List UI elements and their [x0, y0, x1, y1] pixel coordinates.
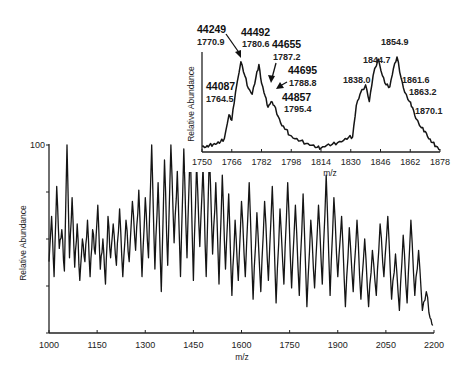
- main-x-tick-label: 1150: [87, 340, 106, 350]
- main-x-tick-label: 2050: [376, 340, 396, 350]
- peak-label-1861: 1861.6: [402, 75, 430, 85]
- main-x-axis-title: m/z: [235, 352, 249, 362]
- peak-label-1838: 1838.0: [343, 75, 371, 85]
- inset-x-tick-label: 1878: [430, 157, 450, 167]
- mass-spectrum-figure: 100011501300145016001750190020502200 100…: [0, 0, 468, 378]
- main-y-top-label: 100: [30, 140, 45, 150]
- annotation-44492: 44492 1780.6: [241, 26, 270, 49]
- inset-x-tick-label: 1798: [281, 157, 301, 167]
- main-spectrum-trace: [49, 145, 433, 326]
- ann-mz-label: 1787.2: [273, 52, 301, 62]
- inset-x-axis-title: m/z: [323, 168, 337, 178]
- ann-mz-label: 1764.5: [206, 94, 234, 104]
- inset-x-tick-label: 1750: [192, 157, 212, 167]
- peak-label-1870: 1870.1: [415, 106, 443, 116]
- main-x-tick-label: 1450: [183, 340, 203, 350]
- main-x-tick-label: 1000: [39, 340, 59, 350]
- ann-mass-label: 44655: [272, 38, 301, 50]
- ann-mz-label: 1770.9: [197, 37, 225, 47]
- main-x-tick-label: 1900: [328, 340, 348, 350]
- inset-x-tick-label: 1782: [251, 157, 271, 167]
- peak-label-1854: 1854.9: [381, 37, 409, 47]
- peak-label-1844: 1844.7: [363, 55, 391, 65]
- ann-mz-label: 1788.8: [289, 78, 317, 88]
- inset-x-tick-label: 1766: [222, 157, 242, 167]
- main-x-tick-label: 2200: [424, 340, 444, 350]
- ann-mass-label: 44087: [206, 80, 235, 92]
- ann-mass-label: 44695: [288, 64, 317, 76]
- ann-mass-label: 44249: [197, 23, 226, 35]
- inset-chart: 175017661782179818141830184618621878 Rel…: [185, 0, 468, 178]
- main-y-axis-title: Relative Abundance: [18, 205, 28, 281]
- main-x-tick-label: 1600: [231, 340, 251, 350]
- main-x-tick-label: 1300: [135, 340, 155, 350]
- ann-mz-label: 1795.4: [284, 104, 312, 114]
- main-chart: 100011501300145016001750190020502200 100…: [18, 140, 444, 362]
- inset-y-axis-title: Relative Abundance: [186, 66, 196, 142]
- inset-x-tick-label: 1862: [400, 157, 420, 167]
- main-x-tick-label: 1750: [280, 340, 300, 350]
- ann-mz-label: 1780.6: [242, 39, 270, 49]
- inset-x-tick-label: 1830: [341, 157, 361, 167]
- ann-mass-label: 44492: [241, 26, 270, 38]
- annotation-44857: 44857 1795.4: [282, 91, 312, 114]
- inset-x-tick-label: 1846: [370, 157, 390, 167]
- inset-x-tick-label: 1814: [311, 157, 331, 167]
- peak-label-1863: 1863.2: [409, 87, 437, 97]
- ann-mass-label: 44857: [282, 91, 311, 103]
